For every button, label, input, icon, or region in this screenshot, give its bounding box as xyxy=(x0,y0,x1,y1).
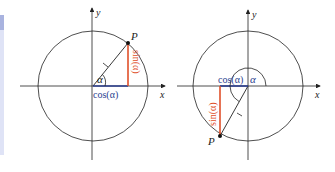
cos-label: cos(α) xyxy=(93,89,118,101)
radius-tick xyxy=(103,63,108,67)
y-axis-label: y xyxy=(251,9,257,20)
point-p xyxy=(218,134,222,138)
point-label: P xyxy=(207,135,215,147)
radius-tick xyxy=(237,113,242,116)
angle-label: α xyxy=(97,73,103,85)
x-axis-label: x xyxy=(159,89,165,100)
angle-label: α xyxy=(250,73,256,85)
y-axis-label: y xyxy=(95,7,101,18)
sin-label: sin(α) xyxy=(130,50,142,74)
unit-circle-diagrams: P x y α cos(α) sin(α) P x y α cos(α) sin… xyxy=(0,0,335,172)
diagram-quadrant3: P x y α cos(α) sin(α) xyxy=(177,9,320,160)
cos-label: cos(α) xyxy=(218,74,243,86)
radius-line xyxy=(220,86,248,136)
point-label: P xyxy=(130,30,138,42)
diagram-quadrant1: P x y α cos(α) sin(α) xyxy=(20,7,165,160)
point-p xyxy=(126,41,130,45)
sin-label: sin(α) xyxy=(207,102,219,126)
angle-arc xyxy=(103,75,106,87)
x-axis-label: x xyxy=(314,89,320,100)
